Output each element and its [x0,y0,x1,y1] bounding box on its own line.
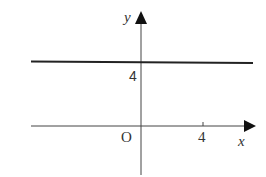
x-tick-label: 4 [198,129,206,145]
y-tick-label: 4 [129,68,137,84]
line-y-equals-4 [31,62,253,64]
coordinate-plane: y 4 O 4 x [0,0,266,177]
y-axis-arrow-icon [135,11,147,24]
y-axis-label: y [122,9,131,25]
x-axis-arrow-icon [244,120,256,132]
x-axis-label: x [237,133,245,149]
origin-label: O [121,129,132,145]
